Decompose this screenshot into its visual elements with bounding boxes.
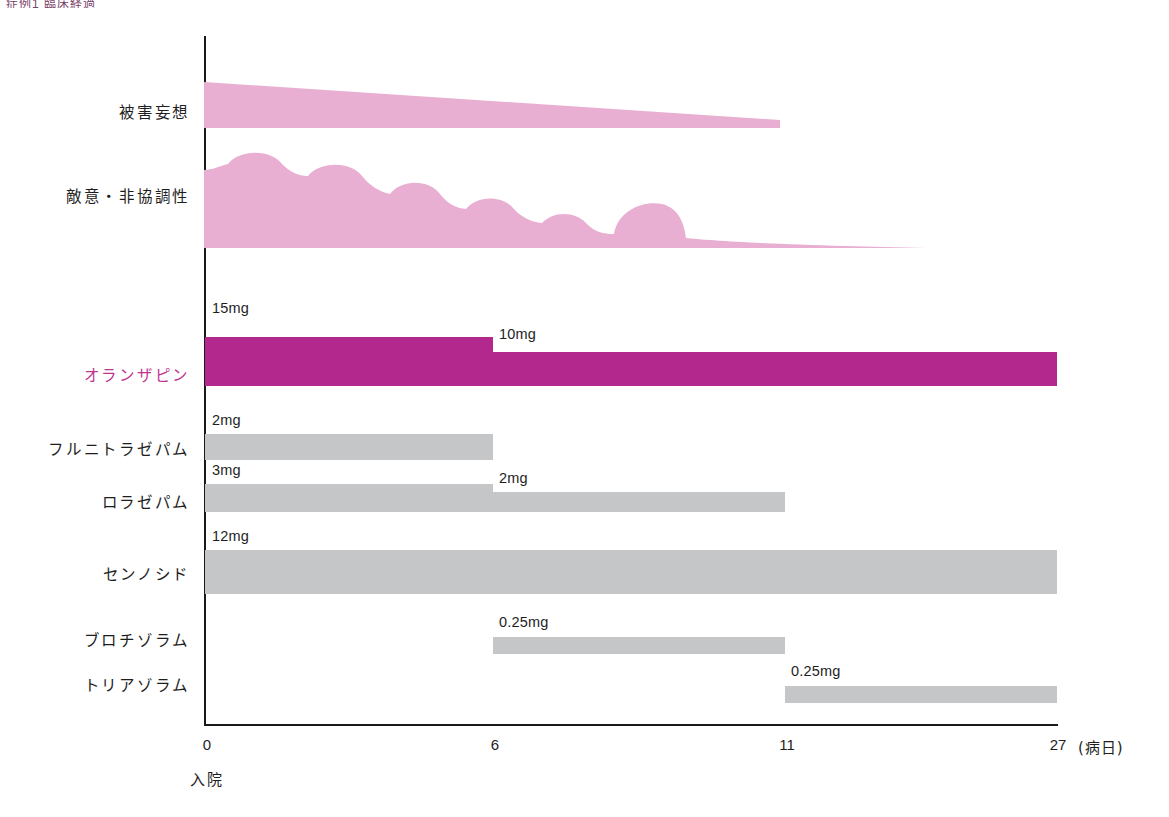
row-label-triazolam: トリアゾラム: [0, 673, 190, 695]
row-label-brotizolam: ブロチゾラム: [0, 628, 190, 650]
x-tick-label-6: 6: [491, 736, 499, 753]
bar-lorazepam-3mg: [205, 484, 493, 512]
dose-label-triazolam-025mg: 0.25mg: [791, 663, 841, 679]
bar-triazolam-025mg: [785, 686, 1057, 703]
bar-sennoside-12mg: [205, 550, 1057, 594]
x-tick-label-0: 0: [203, 736, 211, 753]
x-tick-label-11: 11: [779, 736, 795, 753]
row-label-lorazepam: ロラゼパム: [0, 490, 190, 512]
row-label-sennoside: センノシド: [0, 562, 190, 584]
symptom-wedge-hostility: [204, 152, 944, 256]
dose-label-sennoside-12mg: 12mg: [212, 528, 249, 544]
bar-olanzapine-10mg: [493, 352, 1057, 386]
row-label-hostility: 敵意・非協調性: [0, 184, 190, 206]
x-axis-line: [204, 724, 1058, 726]
dose-label-flunitrazepam-2mg: 2mg: [212, 412, 241, 428]
row-label-persecutory-delusion: 被害妄想: [0, 100, 190, 122]
dose-label-olanzapine-15mg: 15mg: [212, 300, 249, 316]
dose-label-brotizolam-025mg: 0.25mg: [499, 614, 549, 630]
symptom-wedge-persecutory-delusion: [204, 78, 1004, 134]
clinical-course-chart: 症例1 臨床経過 15mg 10mg 2mg 3mg 2mg 12mg 0.25…: [0, 0, 1169, 817]
dose-label-lorazepam-2mg: 2mg: [499, 470, 528, 486]
bar-brotizolam-025mg: [493, 637, 785, 654]
bar-flunitrazepam-2mg: [205, 434, 493, 460]
row-label-flunitrazepam: フルニトラゼパム: [0, 437, 190, 459]
bar-lorazepam-2mg: [493, 492, 785, 512]
dose-label-lorazepam-3mg: 3mg: [212, 462, 241, 478]
x-axis-unit-label: (病日): [1078, 736, 1124, 757]
admission-annotation: 入院: [190, 768, 223, 789]
row-label-olanzapine: オランザピン: [0, 363, 190, 385]
bar-olanzapine-15mg: [205, 337, 493, 386]
x-tick-label-27: 27: [1050, 736, 1067, 753]
dose-label-olanzapine-10mg: 10mg: [499, 326, 536, 342]
figure-heading: 症例1 臨床経過: [6, 0, 306, 8]
